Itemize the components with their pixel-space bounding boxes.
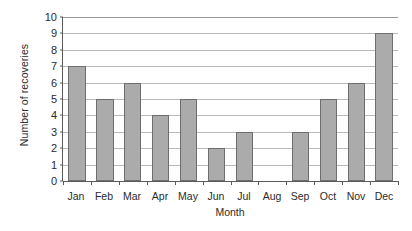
x-tick-label-mar: Mar	[118, 190, 146, 203]
bar-slot	[314, 17, 342, 181]
x-tick-mark	[342, 181, 343, 185]
x-tick-mark	[91, 181, 92, 185]
x-tick-label-nov: Nov	[342, 190, 370, 203]
cropped-caption-edge	[110, 225, 260, 229]
x-tick-label-aug: Aug	[258, 190, 286, 203]
x-tick-label-apr: Apr	[146, 190, 174, 203]
y-tick-label: 0	[51, 176, 57, 187]
bar-apr[interactable]	[152, 115, 169, 181]
bar-dec[interactable]	[375, 33, 392, 181]
x-tick-mark	[370, 181, 371, 185]
x-tick-mark	[258, 181, 259, 185]
x-tick-mark	[147, 181, 148, 185]
bar-slot	[258, 17, 286, 181]
bar-jun[interactable]	[208, 148, 225, 181]
bar-slot	[286, 17, 314, 181]
x-tick-label-jun: Jun	[202, 190, 230, 203]
bar-slot	[119, 17, 147, 181]
y-tick-label: 6	[51, 77, 57, 88]
bar-nov[interactable]	[348, 83, 365, 181]
y-axis-title: Number of recoveries	[16, 0, 32, 190]
y-tick-label: 2	[51, 143, 57, 154]
x-tick-mark	[314, 181, 315, 185]
x-tick-label-jul: Jul	[230, 190, 258, 203]
bar-slot	[342, 17, 370, 181]
x-tick-mark	[231, 181, 232, 185]
x-tick-label-feb: Feb	[90, 190, 118, 203]
x-tick-mark	[203, 181, 204, 185]
bar-feb[interactable]	[96, 99, 113, 181]
y-tick-label: 5	[51, 94, 57, 105]
y-tick-label: 7	[51, 61, 57, 72]
bar-slot	[231, 17, 259, 181]
x-axis-tick-labels: JanFebMarAprMayJunJulAugSepOctNovDec	[62, 190, 398, 203]
x-tick-label-jan: Jan	[62, 190, 90, 203]
bar-slot	[175, 17, 203, 181]
x-tick-mark	[63, 181, 64, 185]
y-tick-label: 3	[51, 126, 57, 137]
x-axis-title: Month	[62, 206, 398, 219]
bar-mar[interactable]	[124, 83, 141, 181]
x-tick-mark	[175, 181, 176, 185]
bar-slot	[91, 17, 119, 181]
y-tick-label: 1	[51, 159, 57, 170]
x-tick-mark	[398, 181, 399, 185]
y-tick-label: 10	[45, 12, 57, 23]
x-tick-mark	[286, 181, 287, 185]
bar-jul[interactable]	[236, 132, 253, 181]
bar-may[interactable]	[180, 99, 197, 181]
x-tick-label-may: May	[174, 190, 202, 203]
bar-slot	[147, 17, 175, 181]
bar-slot	[203, 17, 231, 181]
x-tick-label-oct: Oct	[314, 190, 342, 203]
x-tick-label-dec: Dec	[370, 190, 398, 203]
x-tick-mark	[119, 181, 120, 185]
bar-series	[63, 17, 398, 181]
bar-chart-figure: Number of recoveries 012345678910 JanFeb…	[0, 0, 412, 231]
y-tick-label: 9	[51, 28, 57, 39]
bar-oct[interactable]	[320, 99, 337, 181]
y-tick-label: 4	[51, 110, 57, 121]
x-tick-label-sep: Sep	[286, 190, 314, 203]
bar-sep[interactable]	[292, 132, 309, 181]
y-tick-label: 8	[51, 44, 57, 55]
bar-slot	[370, 17, 398, 181]
bar-slot	[63, 17, 91, 181]
plot-area: 012345678910	[62, 17, 398, 181]
bar-jan[interactable]	[68, 66, 85, 181]
